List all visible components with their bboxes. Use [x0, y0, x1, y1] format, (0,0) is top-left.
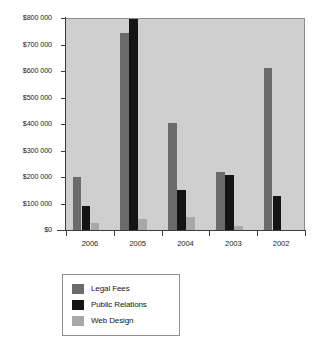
bar-group-2006 [73, 19, 100, 230]
bar-2006-legal [73, 177, 82, 230]
y-tick-mark [61, 18, 66, 19]
x-tick-mark [162, 231, 163, 236]
legend-label: Legal Fees [91, 285, 130, 293]
bar-2004-pr [177, 190, 186, 230]
x-tick-mark [66, 231, 67, 236]
x-tick-label-2002: 2002 [261, 240, 301, 248]
x-axis-line [57, 230, 306, 231]
y-tick-mark [61, 151, 66, 152]
bar-2006-pr [82, 206, 91, 230]
y-tick-label: $500 000 [23, 94, 52, 101]
x-tick-mark [257, 231, 258, 236]
y-tick-label: $700 000 [23, 41, 52, 48]
legend-swatch-pr [72, 300, 84, 310]
bar-2002-legal [264, 68, 273, 230]
bar-group-2005 [120, 19, 147, 230]
y-tick-label: $0 [44, 226, 52, 233]
x-tick-label-2003: 2003 [213, 240, 253, 248]
x-tick-mark [114, 231, 115, 236]
y-tick-mark [61, 204, 66, 205]
x-tick-label-2006: 2006 [70, 240, 110, 248]
legend-item-legal: Legal Fees [72, 281, 179, 297]
y-tick-label: $200 000 [23, 173, 52, 180]
legend-item-pr: Public Relations [72, 297, 179, 313]
bar-2003-pr [225, 175, 234, 230]
bar-2002-pr [273, 196, 282, 230]
y-tick-label: $300 000 [23, 147, 52, 154]
legend-swatch-web [72, 316, 84, 326]
legend-item-web: Web Design [72, 313, 179, 329]
y-tick-mark [61, 98, 66, 99]
bar-group-2002 [264, 19, 291, 230]
legend-swatch-legal [72, 284, 84, 294]
bar-2004-legal [168, 123, 177, 230]
legend-label: Web Design [91, 317, 133, 325]
x-tick-label-2004: 2004 [166, 240, 206, 248]
bar-2005-pr [129, 18, 138, 230]
bar-group-2003 [216, 19, 243, 230]
y-tick-mark [61, 71, 66, 72]
chart-legend: Legal FeesPublic RelationsWeb Design [62, 274, 180, 336]
bar-2003-legal [216, 172, 225, 230]
bar-2005-web [138, 219, 147, 230]
bar-chart-figure: $0$100 000$200 000$300 000$400 000$500 0… [0, 0, 325, 352]
y-tick-label: $100 000 [23, 200, 52, 207]
bar-2006-web [91, 223, 100, 230]
plot-area [66, 18, 305, 230]
x-tick-mark [209, 231, 210, 236]
legend-label: Public Relations [91, 301, 147, 309]
y-tick-label: $400 000 [23, 120, 52, 127]
y-tick-mark [61, 45, 66, 46]
bar-2004-web [186, 217, 195, 230]
y-tick-label: $600 000 [23, 67, 52, 74]
y-tick-mark [61, 124, 66, 125]
y-tick-label: $800 000 [23, 14, 52, 21]
x-tick-label-2005: 2005 [118, 240, 158, 248]
bar-2005-legal [120, 33, 129, 230]
y-tick-mark [61, 177, 66, 178]
x-tick-mark [305, 231, 306, 236]
y-axis: $0$100 000$200 000$300 000$400 000$500 0… [0, 0, 60, 352]
bar-group-2004 [168, 19, 195, 230]
